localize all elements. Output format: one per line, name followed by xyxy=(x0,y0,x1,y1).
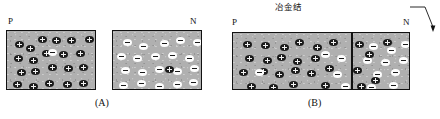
carrier-positive xyxy=(277,54,286,61)
carrier-negative xyxy=(401,41,410,48)
carrier-negative xyxy=(139,43,148,50)
carrier-positive xyxy=(243,41,252,48)
carrier-negative xyxy=(121,67,130,74)
metallurgical-junction-line xyxy=(351,33,353,90)
carrier-positive xyxy=(79,80,88,87)
carrier-positive xyxy=(45,80,54,87)
metallurgical-junction-callout: 冶金结 xyxy=(275,3,302,12)
carrier-positive xyxy=(85,36,94,43)
panel-a-p-label: P xyxy=(8,17,13,26)
carrier-positive xyxy=(295,39,304,46)
carrier-negative xyxy=(399,57,408,64)
carrier-negative xyxy=(173,68,182,75)
carrier-positive xyxy=(269,84,278,90)
carrier-positive xyxy=(48,64,57,71)
carrier-positive xyxy=(63,81,72,88)
carrier-negative xyxy=(387,47,396,54)
carrier-negative xyxy=(137,80,146,87)
panel-a-n-block xyxy=(112,30,202,90)
carrier-negative xyxy=(391,69,400,76)
carrier-positive xyxy=(245,55,254,62)
carrier-positive xyxy=(26,45,35,52)
carrier-positive xyxy=(383,39,392,46)
carrier-positive xyxy=(38,36,47,43)
carrier-positive xyxy=(165,66,174,73)
carrier-positive xyxy=(261,42,270,49)
carrier-negative xyxy=(138,69,147,76)
carrier-positive xyxy=(291,67,300,74)
carrier-negative xyxy=(333,71,342,78)
panel-b-n-label: N xyxy=(403,18,410,27)
carrier-positive xyxy=(29,83,38,90)
carrier-positive xyxy=(355,41,364,48)
carrier-negative xyxy=(48,49,57,56)
carrier-positive xyxy=(275,71,284,78)
carrier-negative xyxy=(173,81,182,88)
carrier-negative xyxy=(123,39,132,46)
carrier-positive xyxy=(247,83,256,90)
carrier-positive xyxy=(307,70,316,77)
carrier-negative xyxy=(367,84,376,90)
carrier-negative xyxy=(176,37,185,44)
carrier-negative xyxy=(381,59,390,66)
carrier-negative xyxy=(189,79,198,86)
panel-a-caption: (A) xyxy=(95,98,109,108)
carrier-positive xyxy=(64,65,73,72)
carrier-negative xyxy=(160,40,169,47)
carrier-negative xyxy=(369,43,378,50)
carrier-positive xyxy=(357,83,366,90)
carrier-positive xyxy=(365,51,374,58)
carrier-positive xyxy=(329,39,338,46)
carrier-positive xyxy=(239,69,248,76)
carrier-negative xyxy=(363,57,372,64)
carrier-positive xyxy=(293,58,302,65)
carrier-positive xyxy=(280,44,289,51)
carrier-negative xyxy=(389,82,398,89)
carrier-negative xyxy=(337,55,346,62)
carrier-negative xyxy=(133,55,142,62)
carrier-negative xyxy=(190,65,199,72)
carrier-positive xyxy=(325,65,334,72)
carrier-negative xyxy=(185,55,194,62)
panel-b-p-label: P xyxy=(232,18,237,27)
carrier-negative xyxy=(119,82,128,89)
carrier-positive xyxy=(17,69,26,76)
carrier-positive xyxy=(263,57,272,64)
carrier-negative xyxy=(255,69,264,76)
carrier-positive xyxy=(67,37,76,44)
carrier-positive xyxy=(311,55,320,62)
carrier-positive xyxy=(13,81,22,88)
carrier-positive xyxy=(15,41,24,48)
carrier-negative xyxy=(155,66,164,73)
carrier-negative xyxy=(151,53,160,60)
carrier-negative xyxy=(321,51,330,58)
panel-a-n-label: N xyxy=(190,17,197,26)
carrier-negative xyxy=(117,53,126,60)
panel-a: P N xyxy=(0,0,209,119)
carrier-positive xyxy=(79,64,88,71)
panel-a-p-block xyxy=(6,30,96,90)
carrier-positive xyxy=(14,55,23,62)
panel-b-caption: (B) xyxy=(308,98,321,108)
carrier-positive xyxy=(289,81,298,88)
carrier-positive xyxy=(31,68,40,75)
carrier-negative xyxy=(193,39,202,46)
carrier-positive xyxy=(371,77,380,84)
carrier-positive xyxy=(321,82,330,89)
carrier-positive xyxy=(52,37,61,44)
carrier-positive xyxy=(76,50,85,57)
carrier-negative xyxy=(155,83,164,90)
carrier-positive xyxy=(313,44,322,51)
panel-b-pn-block xyxy=(232,32,410,90)
carrier-positive xyxy=(59,51,68,58)
carrier-negative xyxy=(168,52,177,59)
carrier-positive xyxy=(29,57,38,64)
panel-b: 冶金结 P N xyxy=(210,0,419,119)
carrier-positive xyxy=(353,67,362,74)
carrier-negative xyxy=(341,83,350,90)
